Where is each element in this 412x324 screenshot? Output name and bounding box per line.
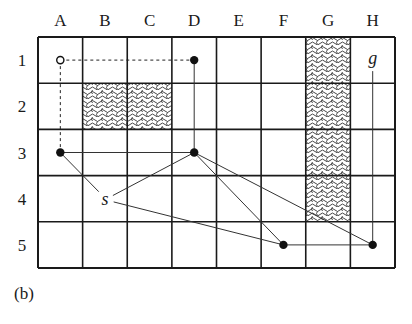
solid-edge bbox=[194, 153, 283, 245]
row-label: 4 bbox=[18, 190, 27, 209]
column-label: G bbox=[322, 11, 334, 30]
obstacle-cell bbox=[306, 129, 351, 175]
obstacle-cell bbox=[83, 83, 128, 129]
row-label: 1 bbox=[18, 51, 27, 70]
column-label: A bbox=[54, 11, 67, 30]
row-label: 3 bbox=[18, 144, 27, 163]
row-labels: 12345 bbox=[18, 51, 27, 255]
column-labels: ABCDEFGH bbox=[54, 11, 379, 30]
obstacle-cell bbox=[306, 176, 351, 222]
grid-diagram: ABCDEFGH 12345 sg bbox=[0, 0, 412, 324]
start-label: s bbox=[101, 189, 108, 209]
column-label: H bbox=[367, 11, 379, 30]
obstacle-cell bbox=[127, 83, 172, 129]
column-label: E bbox=[234, 11, 244, 30]
goal-label: g bbox=[368, 48, 377, 68]
filled-node bbox=[190, 56, 198, 64]
obstacle-cell bbox=[306, 37, 351, 83]
column-label: C bbox=[144, 11, 155, 30]
solid-edge bbox=[60, 153, 98, 192]
row-label: 5 bbox=[18, 236, 27, 255]
solid-edge bbox=[113, 153, 194, 196]
filled-node bbox=[190, 148, 198, 156]
filled-node bbox=[279, 241, 287, 249]
column-label: B bbox=[99, 11, 110, 30]
open-node bbox=[57, 57, 64, 64]
solid-edge bbox=[114, 202, 284, 245]
column-label: D bbox=[188, 11, 200, 30]
row-label: 2 bbox=[18, 97, 27, 116]
filled-node bbox=[368, 241, 376, 249]
column-label: F bbox=[279, 11, 288, 30]
figure-caption: (b) bbox=[14, 284, 34, 304]
obstacle-cell bbox=[306, 83, 351, 129]
filled-node bbox=[56, 148, 64, 156]
